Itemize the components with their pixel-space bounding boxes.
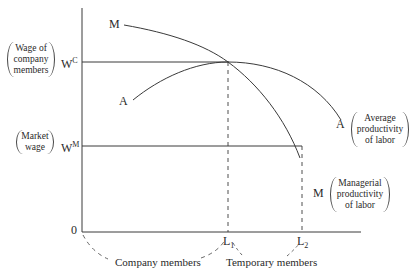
tick-subscript: 2 — [304, 241, 308, 250]
description-line: productivity — [356, 124, 404, 135]
description-line: productivity — [335, 189, 385, 200]
l1-label: L1 — [223, 235, 234, 252]
temporary-members-bracket — [233, 243, 299, 256]
temporary-members-label: Temporary members — [226, 256, 317, 268]
a-curve-end-label: A — [336, 118, 345, 131]
l2-label: L2 — [297, 235, 308, 252]
symbol-letter: W — [61, 141, 72, 155]
m-curve-start-label: M — [109, 18, 120, 31]
average-productivity-curve — [133, 62, 341, 120]
description-line: Wage of — [12, 43, 50, 54]
origin-label: 0 — [71, 224, 77, 237]
company-members-label: Company members — [115, 256, 201, 268]
description-line: of labor — [356, 135, 404, 146]
tick-subscript: 1 — [230, 241, 234, 250]
description-line: company — [12, 54, 50, 65]
managerial-productivity-description: Managerial productivity of labor — [330, 177, 390, 212]
symbol-letter: W — [61, 57, 72, 71]
a-curve-start-label: A — [119, 95, 128, 108]
average-productivity-description: Average productivity of labor — [351, 112, 409, 147]
m-curve-end-label: M — [313, 187, 324, 200]
company-wage-description: Wage of company members — [7, 42, 55, 77]
description-line: members — [12, 65, 50, 76]
description-line: Average — [356, 113, 404, 124]
market-wage-description: Market wage — [16, 130, 54, 154]
managerial-productivity-curve — [124, 25, 300, 158]
description-line: wage — [21, 142, 49, 153]
description-line: Managerial — [335, 178, 385, 189]
description-line: of labor — [335, 200, 385, 211]
company-wage-symbol: WC — [61, 54, 78, 71]
symbol-superscript: C — [72, 56, 77, 65]
description-line: Market — [21, 131, 49, 142]
symbol-superscript: M — [72, 140, 79, 149]
market-wage-symbol: WM — [61, 138, 79, 155]
